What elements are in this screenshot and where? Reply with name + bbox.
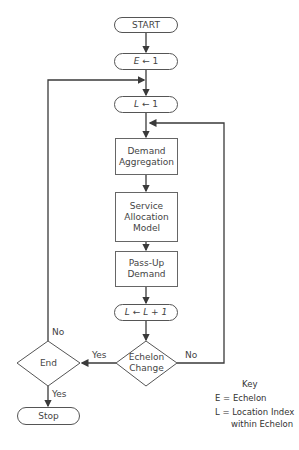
demand-aggregation-line1: Demand: [127, 146, 165, 157]
echelon-yes-label: Yes: [92, 350, 107, 361]
key-title: Key: [242, 378, 257, 390]
service-allocation-line2: Allocation: [124, 212, 168, 223]
stop-label: Stop: [38, 411, 58, 422]
end-label: End: [17, 358, 80, 369]
location-increment-expression: L + 1: [143, 307, 167, 318]
demand-aggregation-box: Demand Aggregation: [115, 138, 178, 175]
demand-aggregation-line2: Aggregation: [119, 157, 174, 168]
service-allocation-box: Service Allocation Model: [115, 192, 178, 242]
echelon-change-line1: Echelon: [116, 352, 177, 363]
start-terminal: START: [114, 17, 178, 33]
stop-terminal: Stop: [17, 407, 80, 425]
pass-up-line2: Demand: [127, 269, 165, 280]
echelon-change-line2: Change: [116, 363, 177, 374]
location-init-value: ← 1: [142, 99, 158, 110]
end-yes-label: Yes: [52, 389, 67, 400]
pass-up-demand-box: Pass-Up Demand: [115, 251, 178, 287]
echelon-init-node: E ← 1: [114, 53, 178, 70]
service-allocation-line1: Service: [130, 201, 163, 212]
key-echelon-definition: E = Echelon: [215, 392, 267, 404]
service-allocation-line3: Model: [133, 223, 160, 234]
location-increment-node: L ← L + 1: [114, 304, 178, 321]
echelon-init-value: ← 1: [142, 56, 158, 67]
pass-up-line1: Pass-Up: [129, 258, 164, 269]
key-location-definition-line2: within Echelon: [231, 418, 293, 430]
location-init-node: L ← 1: [114, 96, 178, 113]
location-increment-variable: L: [125, 307, 130, 318]
start-label: START: [132, 20, 160, 31]
echelon-variable: E: [134, 56, 140, 67]
key-location-definition-line1: L = Location Index: [215, 406, 294, 418]
location-increment-arrow: ←: [133, 307, 141, 318]
echelon-change-label: Echelon Change: [116, 352, 177, 374]
end-no-label: No: [52, 327, 64, 338]
echelon-no-label: No: [185, 350, 197, 361]
location-variable: L: [134, 99, 139, 110]
